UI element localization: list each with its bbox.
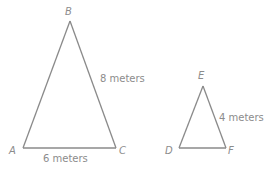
side-label-ac: 6 meters (43, 153, 88, 164)
vertex-label-c: C (119, 145, 126, 156)
side-label-ef: 4 meters (219, 112, 264, 123)
diagram-canvas: B A C 8 meters 6 meters E D F 4 meters (0, 0, 271, 169)
vertex-label-f: F (228, 145, 234, 156)
triangle-abc: B A C 8 meters 6 meters (8, 6, 145, 164)
vertex-label-e: E (198, 70, 205, 81)
side-label-bc: 8 meters (100, 73, 145, 84)
vertex-label-a: A (8, 145, 16, 156)
side-bc (70, 21, 116, 148)
side-ab (23, 21, 70, 148)
vertex-label-b: B (65, 6, 72, 17)
vertex-label-d: D (165, 145, 173, 156)
triangle-def: E D F 4 meters (165, 70, 264, 156)
side-de (179, 86, 203, 148)
